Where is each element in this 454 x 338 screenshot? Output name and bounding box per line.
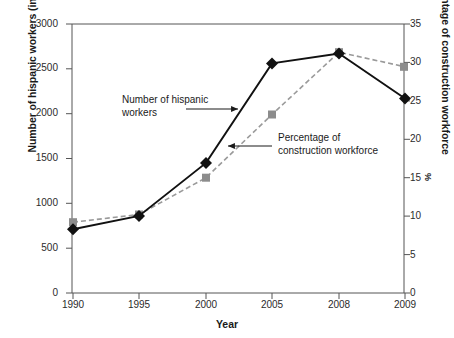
x-axis-ticks (73, 293, 405, 299)
series-line-hispanic-workers-path (73, 54, 405, 230)
series-markers-hispanic-workers (67, 48, 411, 236)
series-line-construction-percentage (73, 52, 405, 222)
y-axis-left-ticks (66, 24, 72, 293)
chart-container: Number of hispanic workers (in 1000s) Pe… (0, 0, 454, 338)
chart-plot-svg (0, 0, 454, 338)
series-markers-construction-percentage (69, 48, 408, 226)
